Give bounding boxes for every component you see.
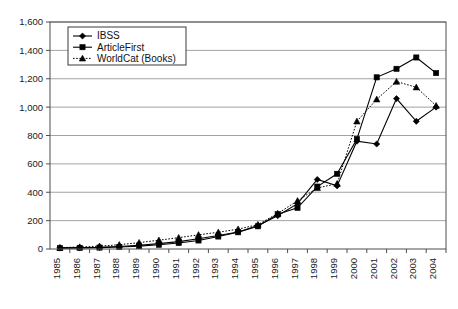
y-tick-label: 1,600	[19, 16, 43, 27]
data-point-marker-1-14	[335, 171, 340, 176]
y-tick-label: 600	[27, 158, 43, 169]
legend-label: WorldCat (Books)	[97, 53, 176, 64]
x-axis-tick-labels: 1985198619871988198919901991199219931994…	[51, 258, 438, 279]
x-tick-label: 1994	[229, 258, 240, 279]
data-point-marker-legend-1	[80, 45, 85, 50]
y-tick-label: 800	[27, 130, 43, 141]
x-tick-label: 1999	[328, 258, 339, 279]
x-tick-label: 2003	[407, 258, 418, 279]
data-point-marker-2-4	[136, 239, 142, 245]
data-point-marker-2-6	[176, 234, 182, 240]
chart-legend: IBSSArticleFirstWorldCat (Books)	[68, 27, 186, 65]
x-tick-label: 1991	[170, 258, 181, 279]
legend-label: ArticleFirst	[97, 42, 144, 53]
x-tick-label: 1997	[289, 258, 300, 279]
legend-label: IBSS	[97, 30, 120, 41]
x-tick-label: 1990	[150, 258, 161, 279]
x-tick-label: 1993	[209, 258, 220, 279]
y-tick-label: 0	[38, 243, 43, 254]
x-tick-label: 1988	[110, 258, 121, 279]
data-point-marker-2-17	[393, 78, 399, 84]
data-point-marker-1-6	[176, 240, 181, 245]
x-tick-label: 2001	[368, 258, 379, 279]
data-point-marker-1-18	[414, 55, 419, 60]
series-ibss	[57, 96, 439, 251]
x-tick-label: 1986	[71, 258, 82, 279]
data-point-marker-1-7	[196, 238, 201, 243]
y-tick-label: 1,200	[19, 73, 43, 84]
data-point-marker-0-16	[374, 141, 380, 147]
data-point-marker-1-19	[434, 70, 439, 75]
chart-container: 02004006008001,0001,2001,4001,600 198519…	[0, 0, 458, 309]
data-point-marker-1-17	[394, 66, 399, 71]
series-worldcat-books	[57, 78, 440, 250]
series-line	[60, 82, 436, 248]
data-point-marker-2-9	[235, 226, 241, 232]
x-tick-label: 1995	[249, 258, 260, 279]
series-line	[60, 99, 436, 248]
y-tick-label: 400	[27, 187, 43, 198]
y-axis-tick-labels: 02004006008001,0001,2001,4001,600	[19, 16, 43, 254]
data-point-marker-1-15	[354, 136, 359, 141]
x-tick-label: 2004	[427, 258, 438, 279]
data-point-marker-1-16	[374, 75, 379, 80]
x-tick-label: 1992	[190, 258, 201, 279]
x-tick-label: 1989	[130, 258, 141, 279]
y-tick-label: 200	[27, 215, 43, 226]
series-layer	[57, 55, 440, 251]
data-point-marker-2-5	[156, 237, 162, 243]
data-point-marker-1-12	[295, 205, 300, 210]
x-tick-label: 1987	[91, 258, 102, 279]
series-line	[60, 57, 436, 248]
x-tick-label: 2002	[388, 258, 399, 279]
series-articlefirst	[57, 55, 438, 251]
line-chart: 02004006008001,0001,2001,4001,600 198519…	[0, 0, 458, 309]
x-tick-label: 2000	[348, 258, 359, 279]
data-point-marker-2-15	[354, 118, 360, 124]
x-tick-label: 1996	[269, 258, 280, 279]
x-tick-label: 1998	[308, 258, 319, 279]
x-tick-label: 1985	[51, 258, 62, 279]
y-tick-label: 1,400	[19, 45, 43, 56]
y-tick-label: 1,000	[19, 102, 43, 113]
